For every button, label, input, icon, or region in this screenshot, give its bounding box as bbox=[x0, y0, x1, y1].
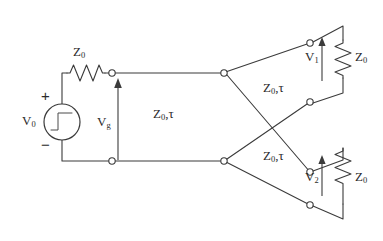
source-bottom-wire bbox=[62, 140, 112, 161]
circuit-schematic-canvas bbox=[0, 0, 383, 241]
node-lower-load-bottom bbox=[307, 202, 313, 208]
branch-wire-top-to-upper-load bbox=[227, 43, 310, 72]
upper-load-impedance-label: Z0 bbox=[355, 50, 367, 64]
source-top-wire bbox=[62, 73, 67, 104]
voltage-source-circle bbox=[44, 104, 80, 140]
vg-label: Vg bbox=[97, 115, 111, 129]
node-junction-bottom bbox=[221, 158, 227, 164]
node-input-top bbox=[109, 70, 115, 76]
lower-load-impedance-label: Z0 bbox=[355, 170, 367, 184]
v2-label: V2 bbox=[305, 170, 319, 184]
branch-wire-bottom-to-lower-load bbox=[227, 163, 310, 206]
series-resistor-label: Z0 bbox=[73, 45, 85, 59]
node-upper-load-bottom bbox=[307, 99, 313, 105]
series-resistor-symbol bbox=[67, 65, 105, 81]
upper-load-resistor-symbol bbox=[335, 40, 351, 78]
v1-label: V1 bbox=[305, 50, 319, 64]
source-label: V0 bbox=[22, 114, 36, 128]
v2-arrow-head-icon bbox=[318, 155, 325, 164]
lower-load-top-wire bbox=[313, 148, 343, 171]
node-upper-load-top bbox=[307, 40, 313, 46]
branch-upper-label: Z0,τ bbox=[263, 81, 284, 95]
lower-load-bottom-wire bbox=[313, 204, 343, 219]
source-minus-sign: − bbox=[41, 137, 50, 152]
main-line-label: Z0,τ bbox=[153, 107, 174, 121]
circuit-diagram: V0 + − Z0 Vg Z0,τ Z0,τ Z0,τ V1 Z0 V2 Z0 bbox=[0, 0, 383, 241]
node-input-bottom bbox=[109, 158, 115, 164]
upper-load-top-wire bbox=[313, 26, 343, 42]
upper-load-bottom-wire bbox=[313, 78, 343, 103]
source-plus-sign: + bbox=[41, 88, 50, 103]
vg-arrow-head-icon bbox=[114, 78, 122, 88]
branch-lower-label: Z0,τ bbox=[263, 149, 284, 163]
node-junction-top bbox=[221, 70, 227, 76]
